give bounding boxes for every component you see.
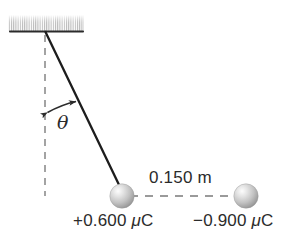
separation-distance-label: 0.150 m [149, 169, 212, 186]
micro-unit-glyph: μ [252, 211, 262, 230]
fixed-charge-sphere [234, 184, 258, 208]
micro-unit-glyph: μ [132, 211, 142, 230]
physics-diagram-figure: 0.150 m θ +0.600 μC −0.900 μC [0, 0, 302, 250]
fixed-charge-label: −0.900 μC [193, 212, 274, 229]
pendulum-ball-sphere [110, 184, 134, 208]
ceiling-hatching [8, 15, 84, 31]
angle-theta-label: θ [57, 113, 68, 132]
pendulum-ball-charge-label: +0.600 μC [73, 212, 154, 229]
